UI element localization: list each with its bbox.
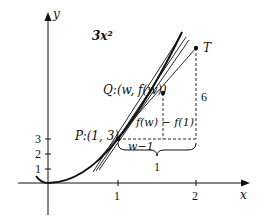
point-T-label: T — [203, 41, 212, 55]
x-tick-label-2: 2 — [192, 189, 198, 203]
axes — [18, 12, 250, 215]
tangent-secant-diagram: 1 2 1 2 3 x y 3x² P:(1, 3) Q:(w, f(w)) T… — [0, 0, 260, 221]
rise-label: f(w) − f(1) — [135, 116, 194, 129]
run-label: w−1 — [128, 140, 154, 153]
x-tick-label-1: 1 — [114, 189, 120, 203]
y-axis-label: y — [52, 7, 60, 21]
y-tick-label-3: 3 — [35, 132, 41, 146]
point-Q-label: Q:(w, f(w)) — [103, 83, 167, 97]
y-tick-label-1: 1 — [35, 162, 41, 176]
height-label: 6 — [201, 90, 207, 104]
x-axis-label: x — [240, 188, 247, 202]
function-label: 3x² — [92, 29, 113, 43]
parabola-curve — [36, 32, 182, 183]
x-axis-arrow-icon — [241, 180, 250, 187]
brace-label: 1 — [154, 160, 160, 174]
y-axis-arrow-icon — [45, 12, 52, 21]
point-P-label: P:(1, 3) — [74, 129, 119, 143]
y-tick-label-2: 2 — [35, 147, 41, 161]
